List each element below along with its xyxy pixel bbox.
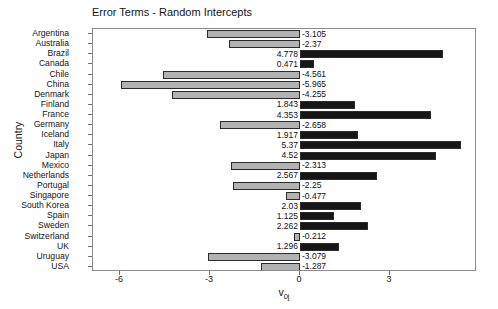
y-tick-mark: [88, 175, 92, 176]
y-tick-label-iceland: Iceland: [0, 129, 69, 139]
bar-netherlands[interactable]: [300, 172, 377, 180]
y-tick-label-canada: Canada: [0, 58, 69, 68]
bar-canada[interactable]: [300, 60, 314, 68]
bar-uruguay[interactable]: [208, 253, 300, 261]
y-tick-mark: [88, 104, 92, 105]
y-tick-label-mexico: Mexico: [0, 160, 69, 170]
bar-row: 1.125: [93, 211, 475, 221]
y-tick-mark: [88, 215, 92, 216]
bar-japan[interactable]: [300, 152, 436, 160]
y-tick-mark: [88, 165, 92, 166]
y-tick-label-brazil: Brazil: [0, 48, 69, 58]
y-tick-mark: [88, 266, 92, 267]
bar-value-label: -4.255: [302, 89, 326, 100]
bar-row: -2.313: [93, 161, 475, 171]
y-tick-mark: [88, 53, 92, 54]
bar-portugal[interactable]: [233, 182, 301, 190]
y-tick-mark: [88, 94, 92, 95]
bar-value-label: -2.658: [302, 120, 326, 131]
y-tick-mark: [88, 63, 92, 64]
y-tick-mark: [88, 155, 92, 156]
x-tick-label: -6: [99, 274, 139, 284]
bar-row: -2.658: [93, 120, 475, 130]
y-tick-label-switzerland: Switzerland: [0, 231, 69, 241]
y-tick-mark: [88, 124, 92, 125]
y-tick-label-france: France: [0, 109, 69, 119]
bar-row: 5.37: [93, 140, 475, 150]
bar-singapore[interactable]: [286, 192, 300, 200]
bar-value-label: 4.52: [93, 150, 298, 161]
bar-value-label: 0.471: [93, 59, 298, 70]
y-tick-mark: [88, 185, 92, 186]
y-tick-mark: [88, 205, 92, 206]
y-tick-label-japan: Japan: [0, 150, 69, 160]
bar-argentina[interactable]: [207, 30, 300, 38]
y-tick-label-australia: Australia: [0, 38, 69, 48]
bar-italy[interactable]: [300, 141, 461, 149]
y-tick-label-portugal: Portugal: [0, 180, 69, 190]
bar-usa[interactable]: [261, 263, 300, 271]
bar-south-korea[interactable]: [300, 202, 361, 210]
y-tick-label-netherlands: Netherlands: [0, 170, 69, 180]
bar-spain[interactable]: [300, 212, 334, 220]
bar-row: 1.296: [93, 242, 475, 252]
y-tick-mark: [88, 33, 92, 34]
y-tick-mark: [88, 43, 92, 44]
y-tick-label-denmark: Denmark: [0, 89, 69, 99]
y-tick-mark: [88, 256, 92, 257]
bar-row: 2.567: [93, 171, 475, 181]
bar-china[interactable]: [121, 81, 300, 89]
x-axis-title-subscript: 0j: [284, 292, 290, 301]
y-tick-label-singapore: Singapore: [0, 190, 69, 200]
bar-iceland[interactable]: [300, 131, 358, 139]
bar-row: 4.778: [93, 49, 475, 59]
x-tick-label: 3: [369, 274, 409, 284]
bar-germany[interactable]: [220, 121, 300, 129]
bar-row: -1.287: [93, 262, 475, 271]
bar-row: -2.37: [93, 39, 475, 49]
y-tick-label-usa: USA: [0, 261, 69, 271]
bar-value-label: -2.37: [302, 39, 321, 50]
y-tick-label-china: China: [0, 79, 69, 89]
bar-row: 2.262: [93, 221, 475, 231]
y-tick-label-spain: Spain: [0, 210, 69, 220]
bar-mexico[interactable]: [231, 162, 300, 170]
y-tick-mark: [88, 195, 92, 196]
bar-row: -0.212: [93, 232, 475, 242]
y-tick-label-italy: Italy: [0, 139, 69, 149]
chart-title: Error Terms - Random Intercepts: [92, 6, 476, 18]
x-axis-title: v0j: [92, 286, 476, 301]
bar-france[interactable]: [300, 111, 431, 119]
bar-uk[interactable]: [300, 243, 339, 251]
y-tick-label-chile: Chile: [0, 69, 69, 79]
bar-row: -0.477: [93, 191, 475, 201]
bar-switzerland[interactable]: [294, 233, 300, 241]
y-tick-label-germany: Germany: [0, 119, 69, 129]
bar-value-label: 4.353: [93, 110, 298, 121]
bar-row: -3.079: [93, 252, 475, 262]
bar-row: -4.255: [93, 90, 475, 100]
bar-chile[interactable]: [163, 71, 300, 79]
bar-finland[interactable]: [300, 101, 355, 109]
bar-row: 0.471: [93, 59, 475, 69]
y-tick-mark: [88, 74, 92, 75]
bar-value-label: -2.313: [302, 160, 326, 171]
bar-row: -2.25: [93, 181, 475, 191]
bar-value-label: 2.262: [93, 221, 298, 232]
y-tick-mark: [88, 246, 92, 247]
bar-denmark[interactable]: [172, 91, 300, 99]
bar-row: -3.105: [93, 29, 475, 39]
y-tick-mark: [88, 84, 92, 85]
chart-figure: Error Terms - Random Intercepts Country …: [0, 0, 498, 309]
bar-sweden[interactable]: [300, 222, 368, 230]
bar-row: 1.843: [93, 100, 475, 110]
bar-value-label: -0.212: [302, 231, 326, 242]
bar-brazil[interactable]: [300, 50, 443, 58]
bar-australia[interactable]: [229, 40, 300, 48]
bar-row: 2.03: [93, 201, 475, 211]
bar-row: 1.917: [93, 130, 475, 140]
bar-row: 4.353: [93, 110, 475, 120]
y-tick-mark: [88, 236, 92, 237]
bar-value-label: -0.477: [302, 191, 326, 202]
bar-value-label: 2.567: [93, 170, 298, 181]
